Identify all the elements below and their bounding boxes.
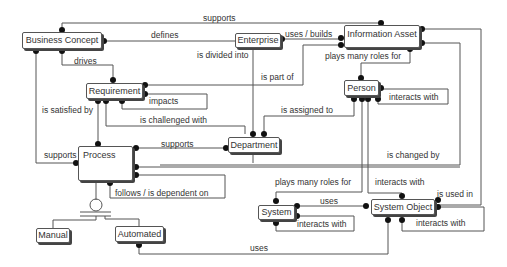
label-drives: drives bbox=[74, 57, 97, 66]
label-defines: defines bbox=[151, 31, 178, 40]
entity-system[interactable]: System bbox=[258, 205, 295, 220]
entity-system-object[interactable]: System Object bbox=[371, 199, 435, 215]
label-is-challenged-with: is challenged with bbox=[140, 116, 207, 125]
entity-business-concept[interactable]: Business Concept bbox=[22, 32, 102, 49]
label-supports-process-dept: supports bbox=[161, 140, 194, 149]
label-is-changed-by: is changed by bbox=[387, 151, 439, 160]
label-uses-builds: uses / builds bbox=[285, 30, 332, 39]
label-is-assigned-to: is assigned to bbox=[281, 106, 333, 115]
entity-person[interactable]: Person bbox=[344, 80, 379, 96]
entity-information-asset[interactable]: Information Asset bbox=[344, 25, 420, 48]
label-interacts-with-system-object-self: interacts with bbox=[416, 219, 466, 228]
label-supports-left: supports bbox=[44, 151, 77, 160]
label-interacts-with-person: interacts with bbox=[389, 93, 439, 102]
label-follows-is-dependent-on: follows / is dependent on bbox=[115, 189, 209, 198]
entity-manual[interactable]: Manual bbox=[36, 228, 70, 243]
label-uses-system-to-object: uses bbox=[320, 197, 338, 206]
label-plays-many-roles-for-2: plays many roles for bbox=[275, 178, 351, 187]
label-is-satisfied-by: is satisfied by bbox=[42, 106, 93, 115]
label-supports-top: supports bbox=[203, 14, 236, 23]
entity-enterprise[interactable]: Enterprise bbox=[235, 33, 281, 48]
label-interacts-with-system-object: interacts with bbox=[375, 178, 425, 187]
entity-requirement[interactable]: Requirement bbox=[86, 83, 143, 99]
diagram-canvas: Business Concept Enterprise Information … bbox=[0, 0, 507, 267]
label-interacts-with-system: interacts with bbox=[297, 220, 347, 229]
entity-automated[interactable]: Automated bbox=[115, 226, 164, 242]
label-impacts: impacts bbox=[149, 97, 178, 106]
label-is-part-of: is part of bbox=[261, 73, 294, 82]
entity-process[interactable]: Process bbox=[78, 146, 133, 181]
label-is-divided-into: is divided into bbox=[197, 51, 249, 60]
label-plays-many-roles-for-1: plays many roles for bbox=[325, 52, 401, 61]
entity-department[interactable]: Department bbox=[228, 137, 280, 153]
label-is-used-in: is used in bbox=[437, 190, 473, 199]
label-uses-bottom: uses bbox=[250, 244, 268, 253]
